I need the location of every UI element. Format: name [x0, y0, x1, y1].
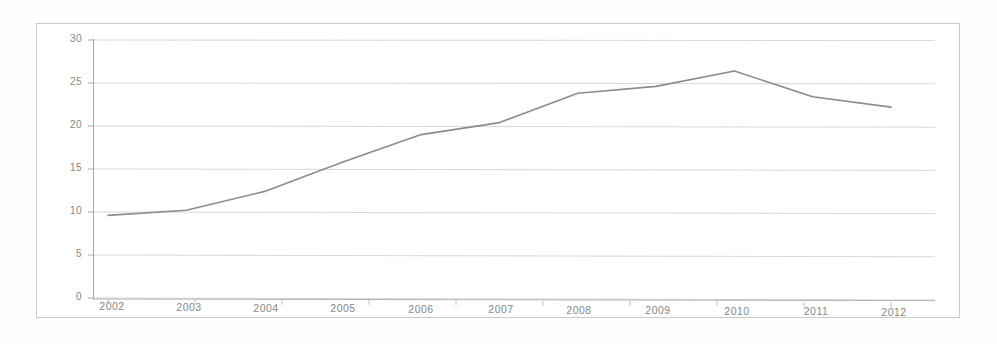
series-1-line — [108, 71, 891, 215]
x-tick-label-2002: 2002 — [89, 300, 135, 312]
gridline-25 — [93, 83, 935, 84]
y-tick-label-10: 10 — [56, 205, 82, 216]
y-tick-label-15: 15 — [56, 162, 82, 173]
y-tick-label-20: 20 — [56, 119, 82, 130]
y-tick-label-5: 5 — [56, 248, 82, 259]
line-chart — [0, 0, 997, 344]
x-tick-label-2005: 2005 — [320, 302, 366, 314]
x-tick-label-2008: 2008 — [556, 304, 602, 316]
gridline-5 — [93, 255, 935, 257]
scanned-page-background: 30 25 20 15 10 5 0 2002 2003 2004 2005 2… — [0, 0, 997, 344]
gridline-15 — [93, 169, 935, 170]
x-tick-label-2012: 2012 — [871, 306, 917, 318]
x-tick-label-2003: 2003 — [166, 301, 212, 313]
y-tick-label-30: 30 — [56, 33, 82, 44]
x-tick-label-2010: 2010 — [714, 305, 760, 317]
y-tick-label-0: 0 — [56, 291, 82, 302]
x-tick-label-2007: 2007 — [478, 303, 524, 315]
x-tick-label-2009: 2009 — [635, 304, 681, 316]
data-series-1 — [108, 71, 891, 215]
x-tick-label-2011: 2011 — [793, 305, 839, 317]
x-tick-label-2006: 2006 — [398, 303, 444, 315]
y-tick-label-25: 25 — [56, 76, 82, 87]
x-tick-label-2004: 2004 — [243, 302, 289, 314]
gridlines — [93, 40, 935, 300]
y-axis — [88, 39, 94, 300]
gridline-20 — [93, 126, 935, 127]
gridline-10 — [93, 212, 935, 214]
gridline-30 — [93, 40, 935, 41]
